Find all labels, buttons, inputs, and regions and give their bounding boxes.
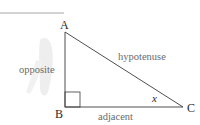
angle-x-label: x xyxy=(151,92,157,104)
opposite-label: opposite xyxy=(19,64,55,75)
hypotenuse-label: hypotenuse xyxy=(118,51,166,62)
vertex-b-label: B xyxy=(55,107,63,121)
triangle-diagram: A B C opposite hypotenuse adjacent x xyxy=(0,0,200,125)
vertex-c-label: C xyxy=(187,101,195,115)
right-angle-marker xyxy=(65,92,80,107)
adjacent-label: adjacent xyxy=(98,111,133,122)
right-triangle xyxy=(65,32,183,107)
vertex-a-label: A xyxy=(60,18,69,32)
